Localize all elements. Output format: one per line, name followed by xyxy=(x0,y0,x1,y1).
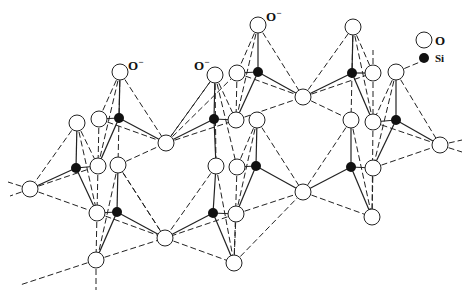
silicon-atom-icon xyxy=(251,161,261,171)
oxygen-atom-icon xyxy=(365,65,381,81)
silicon-atom-icon xyxy=(112,207,122,217)
oxygen-atom-icon xyxy=(69,115,85,131)
oxygen-atom-icon xyxy=(110,157,126,173)
oxygen-atom-icon xyxy=(249,112,265,128)
oxygen-atom-icon xyxy=(228,112,244,128)
silicon-atom-icon xyxy=(347,68,357,78)
oxygen-atom-icon xyxy=(388,64,404,80)
silicon-atom-icon xyxy=(71,163,81,173)
silicon-atom-icon xyxy=(114,113,124,123)
oxygen-atom-icon xyxy=(208,158,224,174)
oxygen-atom-icon xyxy=(364,209,380,225)
oxygen-atom-icon xyxy=(90,158,106,174)
oxygen-atom-icon xyxy=(89,205,105,221)
silicon-atom-icon xyxy=(208,208,218,218)
oxygen-atom-icon xyxy=(91,111,107,127)
oxygen-atom-icon xyxy=(158,135,174,151)
oxygen-legend-icon xyxy=(416,32,432,48)
legend-silicon-label: Si xyxy=(435,52,444,64)
silicon-atom-icon xyxy=(346,162,356,172)
oxygen-atom-icon xyxy=(88,252,104,268)
oxygen-atom-icon xyxy=(295,89,311,105)
oxygen-atom-icon xyxy=(226,255,242,271)
oxygen-atom-icon xyxy=(250,17,266,33)
silicate-structure-diagram: O−O−O− O Si xyxy=(0,0,470,299)
oxygen-atom-icon xyxy=(295,184,311,200)
silicon-legend-icon xyxy=(419,53,429,63)
oxygen-atom-icon xyxy=(207,67,223,83)
oxygen-atom-icon xyxy=(345,19,361,35)
oxygen-atom-icon xyxy=(229,159,245,175)
silicon-atom-icon xyxy=(253,67,263,77)
oxygen-atom-icon xyxy=(229,65,245,81)
oxide-charge-label: O− xyxy=(128,57,143,73)
oxygen-atom-icon xyxy=(365,160,381,176)
legend-oxygen-label: O xyxy=(435,33,445,48)
oxide-charge-label: O− xyxy=(194,57,209,73)
silicon-atom-icon xyxy=(209,114,219,124)
oxide-charge-label: O− xyxy=(266,8,281,24)
oxygen-atom-icon xyxy=(365,114,381,130)
diagram-canvas: O−O−O− O Si xyxy=(0,0,470,299)
legend: O Si xyxy=(416,32,445,64)
oxygen-atom-icon xyxy=(432,137,448,153)
oxygen-atom-icon xyxy=(157,230,173,246)
oxygen-atom-icon xyxy=(343,112,359,128)
oxygen-atom-icon xyxy=(112,64,128,80)
oxygen-atom-icon xyxy=(22,181,38,197)
silicon-atom-icon xyxy=(391,115,401,125)
oxygen-atom-icon xyxy=(228,206,244,222)
